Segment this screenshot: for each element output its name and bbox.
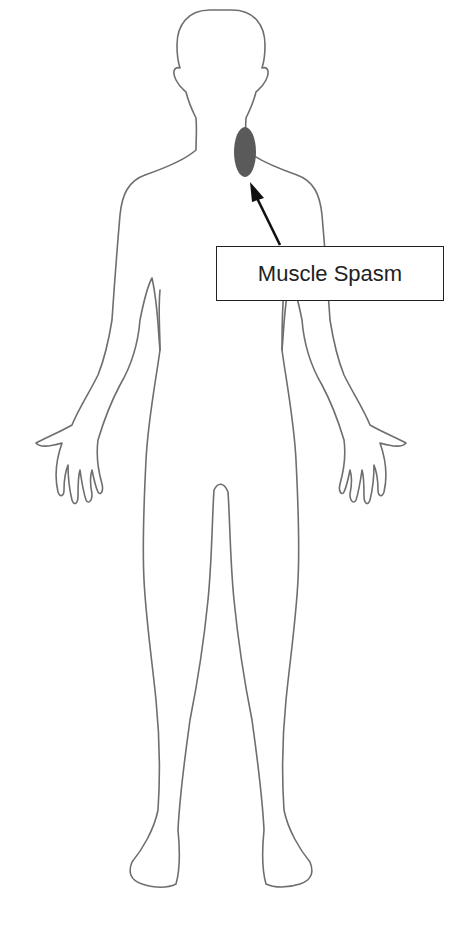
left-torso-line xyxy=(159,290,160,350)
callout-arrow-line xyxy=(256,196,280,245)
human-body-diagram xyxy=(0,0,470,932)
muscle-spasm-marker xyxy=(234,127,256,177)
muscle-spasm-label: Muscle Spasm xyxy=(216,246,444,301)
body-outline xyxy=(36,10,406,887)
callout-arrowhead-icon xyxy=(250,182,264,202)
